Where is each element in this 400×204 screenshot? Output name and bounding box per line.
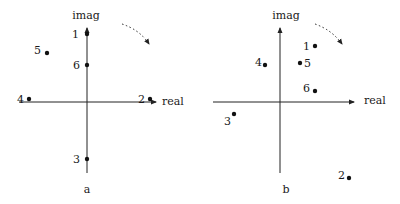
- point-label: 2: [338, 169, 345, 182]
- point-label: 6: [303, 82, 310, 95]
- caption-b: b: [282, 183, 289, 196]
- data-point: [313, 89, 317, 93]
- data-point: [148, 97, 152, 101]
- data-point: [298, 61, 302, 65]
- points-a: 156423: [17, 28, 152, 166]
- rotation-arrow-icon: [315, 24, 342, 44]
- data-point: [347, 176, 351, 180]
- point-label: 4: [17, 93, 24, 106]
- point-label: 1: [303, 40, 310, 53]
- point-label: 2: [138, 93, 145, 106]
- real-axis-label-b: real: [364, 94, 386, 107]
- real-axis-label-a: real: [162, 95, 184, 108]
- complex-plane-diagram: imag real 156423 a imag real 145632 b: [0, 0, 400, 204]
- data-point: [313, 44, 317, 48]
- point-label: 5: [304, 57, 311, 70]
- point-label: 6: [73, 59, 80, 72]
- data-point: [85, 63, 89, 67]
- points-b: 145632: [224, 40, 351, 182]
- point-label: 1: [72, 28, 79, 41]
- data-point: [45, 51, 49, 55]
- point-label: 4: [255, 56, 262, 69]
- imag-axis-label-b: imag: [272, 9, 300, 22]
- panel-b: imag real 145632 b: [213, 9, 386, 196]
- point-label: 3: [73, 153, 80, 166]
- data-point: [263, 63, 267, 67]
- data-point: [85, 32, 89, 36]
- data-point: [232, 112, 236, 116]
- caption-a: a: [84, 183, 91, 196]
- data-point: [27, 97, 31, 101]
- data-point: [85, 157, 89, 161]
- imag-axis-label-a: imag: [72, 9, 100, 22]
- point-label: 5: [34, 44, 41, 57]
- panel-a: imag real 156423 a: [17, 9, 184, 196]
- rotation-arrow-icon: [122, 24, 149, 44]
- point-label: 3: [224, 115, 231, 128]
